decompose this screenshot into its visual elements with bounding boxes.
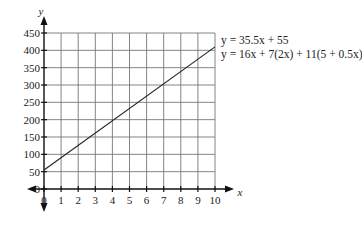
y-tick-label: 350 xyxy=(24,62,41,74)
equation-label-1: y = 35.5x + 55 xyxy=(221,34,289,46)
y-axis-title: y xyxy=(38,5,44,17)
equation-label-2: y = 16x + 7(2x) + 11(5 + 0.5x) xyxy=(221,48,362,60)
x-tick-label: 0 xyxy=(41,194,47,206)
x-tick-label: 8 xyxy=(178,194,184,206)
x-tick-label: 6 xyxy=(144,194,150,206)
x-tick-label: 9 xyxy=(195,194,201,206)
x-axis-right-arrow-icon xyxy=(225,186,234,193)
y-tick-label: 50 xyxy=(29,166,41,178)
y-tick-label: 150 xyxy=(24,131,41,143)
x-tick-label: 2 xyxy=(75,194,81,206)
y-tick-label: 300 xyxy=(24,79,41,91)
y-tick-label: 100 xyxy=(24,148,41,160)
y-tick-label: 450 xyxy=(24,27,41,39)
x-tick-label: 10 xyxy=(210,194,222,206)
x-tick-label: 3 xyxy=(93,194,99,206)
y-tick-label: 400 xyxy=(24,44,41,56)
y-tick-label: 250 xyxy=(24,96,41,108)
x-tick-label: 1 xyxy=(58,194,64,206)
x-tick-label: 5 xyxy=(127,194,133,206)
y-tick-label: 0 xyxy=(35,183,41,195)
x-tick-label: 4 xyxy=(110,194,116,206)
y-tick-label: 200 xyxy=(24,114,41,126)
y-axis-up-arrow-icon xyxy=(41,16,48,25)
x-tick-label: 7 xyxy=(161,194,167,206)
x-axis-title: x xyxy=(237,186,243,198)
